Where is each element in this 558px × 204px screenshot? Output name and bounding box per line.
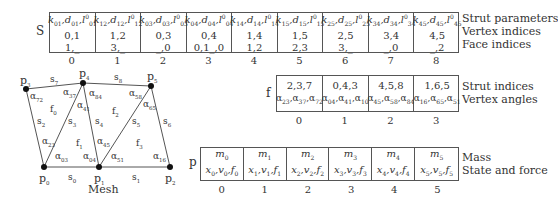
strut-label-s1: s1: [132, 172, 140, 184]
strut-label-s7: s7: [50, 74, 58, 86]
face-cell: 4,5,8α45,α58,α84: [369, 76, 415, 111]
strut-vertex-indices: 0,4: [201, 30, 217, 42]
face-cell: 1,6,5α16,α65,α51: [414, 76, 460, 111]
face-index: 1: [322, 115, 368, 126]
point-row-labels: Mass State and force: [462, 151, 548, 177]
row-label-strut-parameters: Strut parameters: [462, 12, 558, 25]
angle-label-16: α16: [153, 151, 166, 163]
face-vertex-angles: α45,α58,α84: [367, 92, 414, 108]
strut-label-s3: s3: [68, 116, 76, 128]
vertex-label-p0: p0: [39, 172, 50, 186]
face-index: 3: [413, 115, 459, 126]
point-index: 0: [200, 184, 243, 195]
strut-vertex-indices: 1,4: [247, 30, 263, 42]
strut-parameters: k14,d14,l014: [230, 11, 279, 30]
strut-label-s2: s2: [37, 116, 45, 128]
strut-parameters: k25,d25,l025: [321, 11, 370, 30]
strut-index: 7: [368, 55, 414, 66]
strut-parameters: k34,d34,l034: [367, 11, 416, 30]
strut-index: 8: [413, 55, 459, 66]
strut-index: 6: [322, 55, 368, 66]
row-label-mass: Mass: [462, 151, 548, 164]
point-state-force: x4,v4,f4: [377, 164, 410, 180]
strut-label-s8: s8: [114, 72, 122, 84]
point-index: 4: [373, 184, 416, 195]
strut-face-indices: 2,3: [292, 42, 308, 54]
strut-row-labels: Strut parameters Vertex indices Face ind…: [462, 12, 558, 51]
vertex-p1: [96, 164, 102, 170]
strut-index: 5: [277, 55, 323, 66]
angle-label-51: α51: [111, 151, 124, 163]
face-vertex-angles: α04,α41,α10: [322, 92, 369, 108]
angle-label-84: α84: [89, 88, 102, 100]
point-state-force: x2,v2,f2: [291, 164, 324, 180]
strut-cell: k25,d25,l0252,53,_: [323, 13, 369, 52]
point-mass: m2: [301, 148, 314, 164]
strut-vertex-indices: 2,5: [338, 30, 354, 42]
point-cell: m5x5,v5,f5: [415, 148, 458, 180]
point-index: 1: [243, 184, 286, 195]
strut-parameters: k15,d15,l015: [276, 11, 325, 30]
strut-vertex-indices: 3,4: [383, 30, 399, 42]
angle-label-45: α45: [97, 136, 110, 148]
strut-face-indices: _,0: [384, 42, 399, 54]
face-vertex-angles: α23,α37,α72: [276, 92, 323, 108]
angle-label-04: α04: [83, 151, 96, 163]
angle-label-03: α03: [55, 151, 68, 163]
face-row-labels: Strut indices Vertex angles: [462, 80, 538, 106]
point-index: 5: [416, 184, 459, 195]
face-index: 2: [368, 115, 414, 126]
strut-label-s5: s5: [132, 116, 140, 128]
point-mass: m1: [258, 148, 271, 164]
point-cell: m4x4,v4,f4: [372, 148, 415, 180]
face-cell: 0,4,3α04,α41,α10: [323, 76, 369, 111]
strut-cell: k34,d34,l0343,4_,0: [369, 13, 415, 52]
point-cell: m3x3,v3,f3: [329, 148, 372, 180]
face-strut-indices: 0,4,3: [332, 80, 357, 92]
vertex-label-p3: p3: [20, 74, 31, 88]
face-strut-indices: 1,6,5: [424, 80, 449, 92]
angle-label-72: α72: [30, 91, 43, 103]
strut-vertex-indices: 1,5: [292, 30, 308, 42]
face-label-f2: f2: [112, 106, 119, 118]
row-label-vertex-angles: Vertex angles: [462, 93, 538, 106]
strut-index: 4: [231, 55, 277, 66]
vertex-p2: [167, 164, 173, 170]
strut-cell: k15,d15,l0151,52,3: [278, 13, 324, 52]
angle-label-65: α65: [143, 99, 156, 111]
face-label-f1: f1: [76, 138, 83, 150]
strut-parameters: k45,d45,l045: [413, 11, 462, 30]
face-strut-indices: 4,5,8: [378, 80, 403, 92]
strut-label-s4: s4: [95, 116, 103, 128]
point-state-force: x1,v1,f1: [248, 164, 281, 180]
point-state-force: x3,v3,f3: [334, 164, 367, 180]
angle-label-37: α37: [63, 87, 76, 99]
face-cell: 2,3,7α23,α37,α72: [277, 76, 323, 111]
face-strut-indices: 2,3,7: [287, 80, 312, 92]
strut-cell: k45,d45,l0454,5_,2: [414, 13, 460, 52]
point-cell: m2x2,v2,f2: [287, 148, 330, 180]
point-state-force: x5,v5,f5: [420, 164, 453, 180]
point-table: m0x0,v0,f0m1x1,v1,f1m2x2,v2,f2m3x3,v3,f3…: [200, 147, 459, 181]
angle-label-23: α23: [42, 136, 55, 148]
face-table-label: f: [266, 86, 270, 100]
strut-face-indices: 3,_: [338, 42, 353, 54]
face-vertex-angles: α16,α65,α51: [414, 92, 461, 108]
point-mass: m5: [430, 148, 443, 164]
strut-label-s6: s6: [163, 116, 171, 128]
row-label-face-indices: Face indices: [462, 38, 558, 51]
face-label-f3: f3: [136, 138, 143, 150]
angle-label-58: α58: [129, 88, 142, 100]
vertex-p0: [41, 164, 47, 170]
strut-face-indices: _,2: [430, 42, 445, 54]
point-cell: m1x1,v1,f1: [244, 148, 287, 180]
row-label-vertex-indices: Vertex indices: [462, 25, 558, 38]
point-state-force: x0,v0,f0: [205, 164, 238, 180]
face-index: 0: [276, 115, 322, 126]
face-table: 2,3,7α23,α37,α720,4,3α04,α41,α104,5,8α45…: [276, 75, 459, 112]
point-mass: m4: [387, 148, 400, 164]
angle-label-41: α41: [77, 100, 90, 112]
vertex-label-p5: p5: [147, 70, 158, 84]
point-mass: m0: [215, 148, 228, 164]
face-label-f0: f0: [50, 104, 57, 116]
